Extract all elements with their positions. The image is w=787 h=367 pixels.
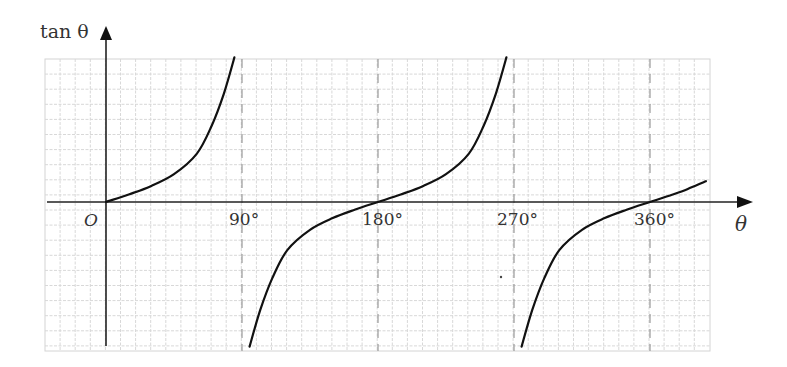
x-axis-arrow-icon bbox=[737, 196, 753, 208]
y-axis-arrow-icon bbox=[100, 26, 112, 40]
x-axis-label: θ bbox=[735, 214, 747, 234]
y-axis-label-text: tan θ bbox=[40, 20, 89, 42]
tick-label-90: 90° bbox=[229, 211, 259, 228]
tick-label-270: 270° bbox=[497, 211, 538, 228]
tick-label-180: 180° bbox=[362, 211, 403, 228]
curve-branch-1 bbox=[106, 57, 234, 202]
tick-label-360: 360° bbox=[634, 211, 675, 228]
stray-dot bbox=[500, 276, 502, 278]
origin-label: O bbox=[84, 212, 98, 229]
curve-branch-3 bbox=[522, 181, 706, 346]
tan-graph bbox=[0, 0, 787, 367]
y-axis-label: tan θ bbox=[40, 22, 89, 41]
